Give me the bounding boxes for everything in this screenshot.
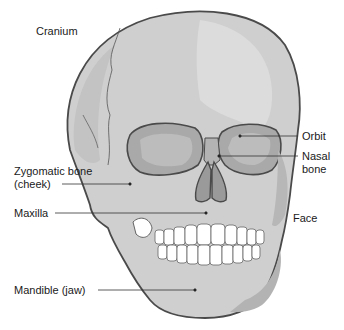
- label-orbit: Orbit: [302, 130, 326, 143]
- label-maxilla: Maxilla: [14, 207, 48, 220]
- label-nasal-line1: Nasal: [302, 150, 330, 163]
- skull-diagram: Cranium Orbit Nasal bone Zygomatic bone …: [0, 0, 344, 330]
- orbit-left-inner: [140, 134, 192, 167]
- nasal-bone-shape: [204, 138, 220, 165]
- label-zygomatic-line1: Zygomatic bone: [14, 165, 92, 178]
- label-mandible: Mandible (jaw): [14, 284, 86, 297]
- label-nasal-line2: bone: [302, 163, 326, 176]
- label-cranium: Cranium: [36, 25, 78, 38]
- label-zygomatic-line2: (cheek): [14, 178, 51, 191]
- label-face: Face: [293, 212, 317, 225]
